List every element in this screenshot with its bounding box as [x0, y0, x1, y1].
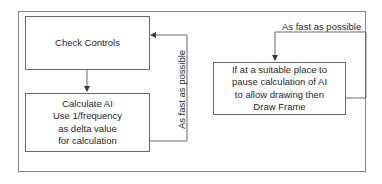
check-controls-box: Check Controls: [25, 16, 150, 70]
draw-frame-line-1: If at a suitable place to: [232, 64, 327, 77]
draw-frame-line-4: Draw Frame: [232, 101, 327, 114]
calculate-ai-line-1: Calculate AI: [53, 98, 122, 111]
calculate-ai-box: Calculate AI Use 1/frequency as delta va…: [25, 93, 150, 152]
calculate-ai-line-4: for calculation: [53, 135, 122, 148]
calculate-ai-line-3: as delta value: [53, 123, 122, 136]
draw-frame-line-3: to allow drawing then: [232, 89, 327, 102]
left-loop-label: As fast as possible: [176, 45, 187, 135]
check-controls-label: Check Controls: [55, 37, 120, 50]
calculate-ai-line-2: Use 1/frequency: [53, 110, 122, 123]
right-loop-label: As fast as possible: [282, 21, 361, 32]
draw-frame-line-2: pause calculation of AI: [232, 76, 327, 89]
draw-frame-box: If at a suitable place to pause calculat…: [213, 62, 346, 115]
